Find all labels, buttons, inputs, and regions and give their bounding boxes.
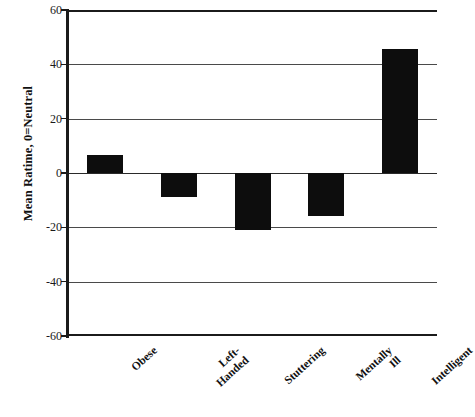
y-tick-label-0: 0 [32,166,62,181]
x-label-line: Stuttering [281,344,326,386]
x-axis-label-stuttering: Stuttering [281,344,326,387]
x-label-line: Obese [129,344,159,373]
plot-area [68,10,437,336]
x-label-line: Intelligent [429,344,475,387]
bar-mentally-ill [308,173,344,216]
y-tick--20 [61,227,68,229]
x-axis-label-obese: Obese [129,344,160,373]
x-axis-label-intelligent: Intelligent [429,344,475,387]
y-tick-label--40: -40 [32,274,62,289]
y-tick-label--20: -20 [32,220,62,235]
y-tick-20 [61,118,68,120]
x-axis-label-left-handed: Left-Handed [205,344,251,389]
y-tick-0 [61,172,68,174]
y-tick-label-40: 40 [32,57,62,72]
gridline--40 [68,282,437,283]
bar-intelligent [382,49,418,173]
bar-stuttering [235,173,271,230]
y-tick-label-60: 60 [32,3,62,18]
x-axis-label-mentally-ill: MentallyIll [354,344,403,392]
y-tick--40 [61,281,68,283]
y-tick-40 [61,64,68,66]
y-tick-label--60: -60 [32,329,62,344]
y-axis-tick-labels: 6040200-20-40-60 [28,0,62,417]
y-tick--60 [61,335,68,337]
x-axis-category-labels: ObeseLeft-HandedStutteringMentallyIllInt… [68,338,437,417]
bar-obese [87,155,123,173]
plot-frame-top-border [68,10,437,12]
bar-left-handed [161,173,197,197]
y-tick-label-20: 20 [32,111,62,126]
plot-frame-bottom-border [68,334,437,336]
y-tick-60 [61,9,68,11]
